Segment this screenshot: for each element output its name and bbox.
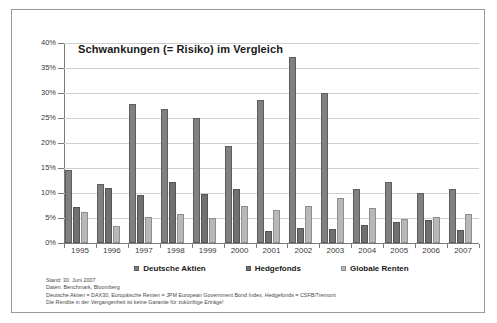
bar (105, 188, 112, 243)
bar (145, 217, 152, 243)
x-axis-label-2007: 2007 (443, 246, 483, 255)
footnote-line-2: Daten: Benchmark, Bloomberg (46, 284, 476, 291)
y-axis-label: 35% (30, 64, 56, 72)
x-axis-tick (479, 244, 480, 248)
bar-group (383, 43, 415, 243)
bar (305, 206, 312, 244)
x-axis-tick (224, 244, 225, 248)
legend-label: Hedgefonds (255, 264, 301, 273)
x-axis-tick (383, 244, 384, 248)
bar (361, 225, 368, 243)
x-axis-tick (160, 244, 161, 248)
bar-group (224, 43, 256, 243)
bar (209, 218, 216, 244)
bar-group (256, 43, 288, 243)
footnotes-block: Stand: 30. Juni 2007Daten: Benchmark, Bl… (46, 277, 476, 307)
bar (177, 214, 184, 244)
bar (297, 228, 304, 244)
bar (265, 231, 272, 244)
bar (65, 170, 72, 244)
bar-group (160, 43, 192, 243)
bar-group (319, 43, 351, 243)
bar (369, 208, 376, 244)
bar (289, 57, 296, 244)
legend-label: Deutsche Aktien (143, 264, 205, 273)
y-axis-label: 20% (30, 139, 56, 147)
footnote-line-4: Die Rendite in der Vergangenheit ist kei… (46, 299, 476, 306)
bar (329, 229, 336, 244)
bar (233, 189, 240, 243)
y-axis-tick (58, 93, 64, 94)
bar (97, 184, 104, 244)
chart-legend: Deutsche AktienHedgefondsGlobale Renten (64, 262, 479, 274)
chart-frame: Schwankungen (= Risiko) im Vergleich 199… (11, 9, 485, 313)
x-axis-tick (415, 244, 416, 248)
bar-group (415, 43, 447, 243)
x-axis-tick (192, 244, 193, 248)
bar (193, 118, 200, 244)
plot-area (64, 43, 479, 243)
bar (457, 230, 464, 243)
y-axis-label: 15% (30, 164, 56, 172)
bar (393, 222, 400, 244)
footnote-line-1: Stand: 30. Juni 2007 (46, 277, 476, 284)
x-axis-tick (96, 244, 97, 248)
bar (433, 217, 440, 243)
bar (449, 189, 456, 244)
x-axis-tick (351, 244, 352, 248)
x-axis-tick (128, 244, 129, 248)
legend-item-hedgefonds[interactable]: Hedgefonds (246, 264, 301, 273)
bar-group (447, 43, 479, 243)
footnote-line-3: Deutsche Aktien = DAX30, Europäische Ren… (46, 292, 476, 299)
bar-group (64, 43, 96, 243)
bar (241, 206, 248, 244)
bar (337, 198, 344, 243)
bar-group (128, 43, 160, 243)
bar (169, 182, 176, 244)
x-axis: 1995199619971998199920002001200220032004… (64, 246, 479, 260)
y-axis-label: 10% (30, 189, 56, 197)
bar (385, 182, 392, 244)
y-axis-label: 40% (30, 39, 56, 47)
bar (401, 219, 408, 244)
bar (417, 193, 424, 243)
bar (129, 104, 136, 243)
y-axis-tick (58, 68, 64, 69)
legend-swatch-icon (341, 266, 346, 271)
legend-item-globale-renten[interactable]: Globale Renten (341, 264, 409, 273)
y-axis-tick (58, 118, 64, 119)
y-axis-label: 30% (30, 89, 56, 97)
y-axis-tick (58, 193, 64, 194)
y-axis-tick (58, 43, 64, 44)
x-axis-tick (64, 244, 65, 248)
bar-group (351, 43, 383, 243)
bar (113, 226, 120, 244)
bar-group (96, 43, 128, 243)
gridline (64, 243, 479, 244)
y-axis-tick (58, 143, 64, 144)
legend-swatch-icon (246, 266, 251, 271)
bar (321, 93, 328, 244)
y-axis-tick (58, 168, 64, 169)
x-axis-tick (256, 244, 257, 248)
y-axis-label: 25% (30, 114, 56, 122)
bar (73, 207, 80, 243)
y-axis-label: 0% (30, 239, 56, 247)
bar (137, 195, 144, 243)
bar-group (287, 43, 319, 243)
x-axis-tick (447, 244, 448, 248)
x-axis-tick (319, 244, 320, 248)
bar-group (192, 43, 224, 243)
bar (425, 220, 432, 244)
bar (201, 194, 208, 244)
bar (161, 109, 168, 243)
slide-canvas: Schwankungen (= Risiko) im Vergleich 199… (0, 0, 497, 323)
bar (465, 214, 472, 243)
legend-swatch-icon (134, 266, 139, 271)
legend-item-deutsche-aktien[interactable]: Deutsche Aktien (134, 264, 205, 273)
y-axis-label: 5% (30, 214, 56, 222)
x-axis-tick (287, 244, 288, 248)
bar (257, 100, 264, 244)
bar (353, 189, 360, 244)
legend-label: Globale Renten (350, 264, 409, 273)
